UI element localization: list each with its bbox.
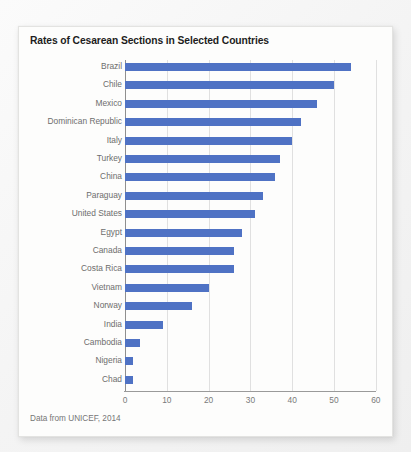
category-label: Italy [107,135,122,145]
category-label: India [104,319,122,329]
bar [125,173,275,181]
category-label: Vietnam [91,282,122,292]
bar [125,81,334,89]
tick-label: 20 [204,395,213,405]
page-title: Rates of Cesarean Sections in Selected C… [30,35,269,46]
tick-label: 40 [288,395,297,405]
bar-rows: BrazilChileMexicoDominican RepublicItaly… [19,57,394,391]
tick-label: 50 [329,395,338,405]
bar-row: Paraguay [19,187,394,205]
bar-row: Norway [19,297,394,315]
source-note: Data from UNICEF, 2014 [30,414,121,423]
bar [125,118,301,126]
category-label: Brazil [101,61,122,71]
bar [125,284,209,292]
category-label: Chile [103,79,122,89]
bar-row: Mexico [19,95,394,113]
category-label: United States [72,208,122,218]
bar [125,63,351,71]
bar [125,339,140,347]
x-axis-tick-labels: 0102030405060 [19,395,394,411]
bar-row: Nigeria [19,352,394,370]
bar-row: Italy [19,132,394,150]
screenshot-canvas: Rates of Cesarean Sections in Selected C… [0,0,411,452]
bar [125,247,234,255]
bar [125,376,133,384]
bar-row: Chad [19,371,394,389]
category-label: Norway [94,300,122,310]
bar [125,321,163,329]
bar-row: Cambodia [19,334,394,352]
tick-label: 60 [371,395,380,405]
chart-card: Rates of Cesarean Sections in Selected C… [18,26,393,437]
tick-label: 10 [162,395,171,405]
bar-row: Dominican Republic [19,113,394,131]
bar-row: United States [19,205,394,223]
category-label: Chad [102,374,122,384]
bar-row: Costa Rica [19,260,394,278]
bar-row: Vietnam [19,279,394,297]
category-label: China [100,171,122,181]
bar-row: Canada [19,242,394,260]
plot-area: BrazilChileMexicoDominican RepublicItaly… [19,57,394,397]
bar-row: Brazil [19,58,394,76]
category-label: Mexico [95,98,122,108]
category-label: Dominican Republic [48,116,122,126]
bar [125,100,317,108]
bar-row: India [19,316,394,334]
tick-label: 0 [123,395,128,405]
bar [125,192,263,200]
bar-row: Egypt [19,224,394,242]
category-label: Nigeria [95,355,122,365]
bar [125,302,192,310]
category-label: Cambodia [84,337,122,347]
category-label: Paraguay [86,190,122,200]
bar-row: Turkey [19,150,394,168]
bar-row: Chile [19,76,394,94]
category-label: Turkey [97,153,122,163]
bar [125,357,133,365]
bar [125,210,255,218]
tick-label: 30 [246,395,255,405]
bar [125,137,292,145]
category-label: Canada [93,245,122,255]
category-label: Costa Rica [81,263,122,273]
bar-row: China [19,168,394,186]
category-label: Egypt [101,227,122,237]
bar [125,229,242,237]
bar [125,265,234,273]
bar [125,155,280,163]
x-axis-line [124,391,376,392]
